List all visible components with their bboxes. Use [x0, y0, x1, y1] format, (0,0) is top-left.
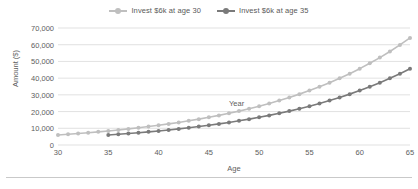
data-point	[368, 61, 372, 65]
data-point	[227, 120, 231, 124]
data-point	[96, 130, 100, 134]
bottom-divider	[6, 177, 412, 178]
data-point	[197, 125, 201, 129]
plot-area	[0, 0, 418, 189]
data-point	[207, 115, 211, 119]
data-point	[267, 113, 271, 117]
data-point	[157, 129, 161, 133]
y-tick-label: 70,000	[8, 24, 54, 33]
data-point	[187, 126, 191, 130]
data-point	[307, 89, 311, 93]
data-point	[227, 111, 231, 115]
data-point	[257, 104, 261, 108]
data-point	[187, 119, 191, 123]
chart-annotation-label: Year	[229, 99, 244, 108]
data-point	[116, 132, 120, 136]
data-point	[136, 126, 140, 130]
x-tick-label: 45	[194, 148, 224, 157]
data-point	[388, 76, 392, 80]
data-point	[317, 85, 321, 89]
data-point	[277, 111, 281, 115]
data-point	[177, 120, 181, 124]
data-point	[126, 127, 130, 131]
y-tick-label: 60,000	[8, 40, 54, 49]
series-line-2	[108, 69, 410, 135]
data-point	[237, 109, 241, 113]
data-point	[197, 117, 201, 121]
data-point	[408, 36, 412, 40]
x-tick-label: 50	[244, 148, 274, 157]
data-point	[348, 92, 352, 96]
x-tick-label: 30	[43, 148, 73, 157]
data-point	[328, 81, 332, 85]
data-point	[297, 92, 301, 96]
data-point	[358, 67, 362, 71]
data-point	[136, 131, 140, 135]
series-line-1	[58, 38, 410, 135]
series-layer	[56, 36, 412, 137]
data-point	[106, 129, 110, 133]
x-tick-label: 65	[395, 148, 418, 157]
y-tick-label: 20,000	[8, 107, 54, 116]
data-point	[338, 95, 342, 99]
y-tick-label: 30,000	[8, 90, 54, 99]
data-point	[147, 130, 151, 134]
investment-growth-chart: Invest $6k at age 30 Invest $6k at age 3…	[0, 0, 418, 189]
x-tick-label: 55	[294, 148, 324, 157]
data-point	[408, 67, 412, 71]
data-point	[368, 85, 372, 89]
y-tick-label: 50,000	[8, 57, 54, 66]
x-axis-title: Age	[58, 164, 410, 173]
data-point	[398, 43, 402, 47]
data-point	[287, 95, 291, 99]
data-point	[237, 119, 241, 123]
data-point	[328, 99, 332, 103]
data-point	[287, 109, 291, 113]
data-point	[157, 123, 161, 127]
data-point	[297, 107, 301, 111]
data-point	[338, 76, 342, 80]
y-tick-label: 40,000	[8, 74, 54, 83]
data-point	[317, 101, 321, 105]
x-tick-label: 40	[144, 148, 174, 157]
data-point	[56, 133, 60, 137]
data-point	[257, 115, 261, 119]
data-point	[217, 122, 221, 126]
data-point	[126, 132, 130, 136]
y-axis-tick-labels: 010,00020,00030,00040,00050,00060,00070,…	[0, 0, 54, 189]
data-point	[277, 99, 281, 103]
data-point	[358, 89, 362, 93]
data-point	[177, 127, 181, 131]
data-point	[378, 56, 382, 60]
data-point	[247, 117, 251, 121]
data-point	[167, 122, 171, 126]
data-point	[267, 101, 271, 105]
data-point	[76, 132, 80, 136]
data-point	[217, 113, 221, 117]
data-point	[348, 72, 352, 76]
y-tick-label: 10,000	[8, 124, 54, 133]
x-tick-label: 60	[345, 148, 375, 157]
data-point	[147, 125, 151, 129]
x-tick-label: 35	[93, 148, 123, 157]
data-point	[398, 72, 402, 76]
data-point	[207, 123, 211, 127]
data-point	[167, 128, 171, 132]
data-point	[378, 81, 382, 85]
data-point	[106, 133, 110, 137]
data-point	[307, 104, 311, 108]
data-point	[66, 132, 70, 136]
data-point	[388, 49, 392, 53]
data-point	[247, 107, 251, 111]
gridlines	[58, 28, 410, 145]
data-point	[116, 128, 120, 132]
data-point	[86, 131, 90, 135]
